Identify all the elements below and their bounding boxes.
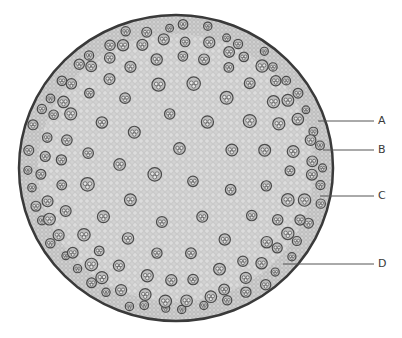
vascular-bundle xyxy=(94,246,104,256)
vascular-bundle xyxy=(292,237,301,246)
vascular-bundle xyxy=(44,213,56,225)
vascular-bundle xyxy=(282,227,294,239)
vascular-bundle xyxy=(65,108,77,120)
vascular-bundle xyxy=(125,61,136,72)
vascular-bundle xyxy=(141,270,153,282)
label-b: B xyxy=(378,144,386,156)
vascular-bundle xyxy=(174,143,186,155)
vascular-bundle xyxy=(204,22,212,30)
vascular-bundle xyxy=(282,94,294,106)
vascular-bundle xyxy=(120,93,131,104)
vascular-bundle xyxy=(57,76,67,86)
vascular-bundle xyxy=(306,169,317,180)
vascular-bundle xyxy=(205,291,217,303)
vascular-bundle xyxy=(142,27,152,37)
vascular-bundle xyxy=(40,151,50,161)
vascular-bundle xyxy=(287,146,299,158)
vascular-bundle xyxy=(285,166,295,176)
vascular-bundle xyxy=(166,24,174,32)
vascular-bundle xyxy=(186,248,197,259)
vascular-bundle xyxy=(85,88,95,98)
vascular-bundle xyxy=(256,60,268,72)
vascular-bundle xyxy=(62,135,73,146)
vascular-bundle xyxy=(53,230,64,241)
vascular-bundle xyxy=(36,169,46,179)
vascular-bundle xyxy=(104,53,114,63)
vascular-bundle xyxy=(125,302,133,310)
vascular-bundle xyxy=(85,258,98,271)
vascular-bundle xyxy=(78,229,90,241)
vascular-bundle xyxy=(316,181,325,190)
vascular-bundle xyxy=(226,144,238,156)
vascular-bundle xyxy=(46,239,55,248)
vascular-bundle xyxy=(56,155,66,165)
vascular-bundle xyxy=(247,210,257,220)
vascular-bundle xyxy=(137,39,148,50)
vascular-bundle xyxy=(204,37,215,48)
vascular-bundle xyxy=(24,145,34,155)
vascular-bundle xyxy=(261,280,271,290)
vascular-bundle xyxy=(81,178,95,192)
label-a: A xyxy=(378,115,386,127)
ground-tissue xyxy=(38,34,314,302)
vascular-bundle xyxy=(74,59,84,69)
vascular-bundle xyxy=(151,54,162,65)
vascular-bundle xyxy=(298,194,310,206)
vascular-bundle xyxy=(269,63,277,71)
vascular-bundle xyxy=(84,51,93,60)
vascular-bundle xyxy=(282,194,295,207)
vascular-bundle xyxy=(282,76,291,85)
vascular-bundle xyxy=(42,196,53,207)
vascular-bundle xyxy=(199,54,210,65)
vascular-bundle xyxy=(295,215,305,225)
vascular-bundle xyxy=(122,233,133,244)
vascular-bundle xyxy=(121,27,130,36)
vascular-bundle xyxy=(67,247,78,258)
vascular-bundle xyxy=(152,248,162,258)
vascular-bundle xyxy=(307,156,318,167)
vascular-bundle xyxy=(28,183,36,191)
vascular-bundle xyxy=(166,275,177,286)
vascular-bundle xyxy=(288,253,296,261)
vascular-bundle xyxy=(24,166,32,174)
vascular-bundle xyxy=(225,184,236,195)
vascular-bundle xyxy=(117,40,128,51)
vascular-bundle xyxy=(261,237,272,248)
vascular-bundle xyxy=(139,289,151,301)
vascular-bundle xyxy=(238,256,248,266)
vascular-bundle xyxy=(260,47,268,55)
vascular-bundle xyxy=(223,296,232,305)
vascular-bundle xyxy=(223,34,231,42)
vascular-bundle xyxy=(159,295,171,307)
vascular-bundle xyxy=(292,113,303,124)
vascular-bundle xyxy=(58,96,70,108)
vascular-bundle xyxy=(220,91,233,104)
vascular-bundle xyxy=(97,211,109,223)
vascular-bundle xyxy=(49,110,58,119)
vascular-bundle xyxy=(271,268,279,276)
vascular-bundle xyxy=(243,115,256,128)
label-d: D xyxy=(378,258,386,270)
stem-cross-section-diagram xyxy=(0,0,402,338)
vascular-bundle xyxy=(272,243,282,253)
vascular-bundle xyxy=(256,258,267,269)
vascular-bundle xyxy=(87,278,97,288)
vascular-bundle xyxy=(46,94,55,103)
vascular-bundle xyxy=(116,285,127,296)
vascular-bundle xyxy=(239,52,248,61)
vascular-bundle xyxy=(104,74,115,85)
vascular-bundle xyxy=(128,126,140,138)
vascular-bundle xyxy=(165,109,175,119)
vascular-bundle xyxy=(316,141,325,150)
vascular-bundle xyxy=(180,37,190,47)
vascular-bundle xyxy=(86,61,97,72)
vascular-bundle xyxy=(219,234,230,245)
vascular-bundle xyxy=(43,133,52,142)
vascular-bundle xyxy=(148,168,162,182)
vascular-bundle xyxy=(60,206,71,217)
vascular-bundle xyxy=(261,181,271,191)
vascular-bundle xyxy=(140,301,149,310)
vascular-bundle xyxy=(178,51,188,61)
vascular-bundle xyxy=(31,201,41,211)
vascular-bundle xyxy=(158,34,169,45)
